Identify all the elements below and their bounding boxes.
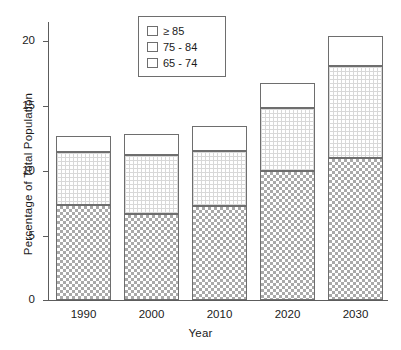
y-tick-label-5: 5 bbox=[5, 229, 35, 241]
legend-item-75-84[interactable]: 75 - 84 bbox=[147, 39, 218, 55]
legend: ≥ 85 75 - 84 65 - 74 bbox=[138, 16, 226, 77]
legend-swatch-85plus-icon bbox=[147, 26, 158, 36]
bar-segment-65-74 bbox=[328, 158, 383, 300]
bar-2020[interactable] bbox=[260, 83, 315, 300]
stacked-bar-chart: Percentage of Total Population Year 20 1… bbox=[0, 0, 401, 350]
y-tick-15 bbox=[43, 106, 48, 107]
bar-segment-65-74 bbox=[124, 214, 179, 300]
bar-segment-75-84 bbox=[56, 152, 111, 205]
legend-swatch-65-74-icon bbox=[147, 58, 158, 68]
bar-segment-85plus bbox=[328, 36, 383, 66]
x-tick-label-2010: 2010 bbox=[185, 308, 255, 320]
bar-segment-65-74 bbox=[260, 171, 315, 300]
bar-segment-75-84 bbox=[124, 155, 179, 215]
bar-segment-75-84 bbox=[260, 108, 315, 172]
legend-label-75-84: 75 - 84 bbox=[163, 42, 197, 53]
bar-segment-65-74 bbox=[192, 206, 247, 300]
x-tick-label-2020: 2020 bbox=[253, 308, 323, 320]
y-tick-label-0: 0 bbox=[5, 293, 35, 305]
x-axis-line bbox=[48, 300, 388, 301]
bar-segment-85plus bbox=[124, 134, 179, 155]
legend-item-85plus[interactable]: ≥ 85 bbox=[147, 23, 218, 39]
y-tick-20 bbox=[43, 41, 48, 42]
legend-label-85plus: ≥ 85 bbox=[163, 26, 184, 37]
y-tick-label-20: 20 bbox=[5, 34, 35, 46]
y-tick-label-15: 15 bbox=[5, 99, 35, 111]
bar-1990[interactable] bbox=[56, 136, 111, 300]
legend-item-65-74[interactable]: 65 - 74 bbox=[147, 55, 218, 71]
bar-segment-85plus bbox=[56, 136, 111, 152]
bar-2030[interactable] bbox=[328, 36, 383, 300]
bar-segment-65-74 bbox=[56, 205, 111, 300]
x-tick-label-2030: 2030 bbox=[321, 308, 391, 320]
x-tick-label-1990: 1990 bbox=[49, 308, 119, 320]
y-tick-label-10: 10 bbox=[5, 164, 35, 176]
y-tick-0 bbox=[43, 300, 48, 301]
y-tick-5 bbox=[43, 236, 48, 237]
y-axis-line bbox=[48, 22, 49, 301]
legend-label-65-74: 65 - 74 bbox=[163, 58, 197, 69]
bar-segment-75-84 bbox=[328, 66, 383, 158]
bar-2000[interactable] bbox=[124, 134, 179, 300]
legend-swatch-75-84-icon bbox=[147, 42, 158, 52]
y-tick-10 bbox=[43, 171, 48, 172]
x-tick-label-2000: 2000 bbox=[117, 308, 187, 320]
bar-segment-75-84 bbox=[192, 151, 247, 207]
x-axis-title: Year bbox=[0, 327, 401, 339]
bar-2010[interactable] bbox=[192, 126, 247, 300]
bar-segment-85plus bbox=[192, 126, 247, 151]
bar-segment-85plus bbox=[260, 83, 315, 108]
